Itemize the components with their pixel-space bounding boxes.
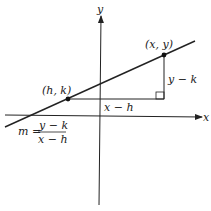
point-h-k [66,97,71,102]
y-axis-label: y [96,3,104,16]
formula-numerator: y − k [38,119,68,132]
point-x-y [162,53,167,58]
rise-label: y − k [167,73,197,86]
y-axis [99,16,101,205]
run-label: x − h [104,101,134,114]
right-angle-marker [156,92,164,99]
x-axis [5,115,202,117]
x-axis-label: x [203,111,210,124]
point-x-y-label: (x, y) [145,38,173,51]
point-h-k-label: (h, k) [42,84,71,97]
formula-denominator: x − h [38,133,68,146]
slope-diagram: x y (h, k) (x, y) y − k x − h m = y − k … [0,0,211,211]
